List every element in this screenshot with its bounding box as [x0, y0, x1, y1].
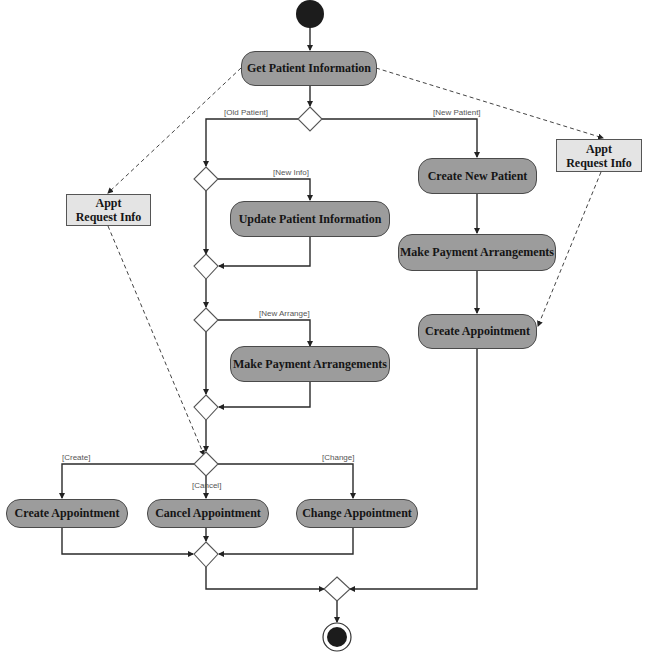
- merge-info: [194, 254, 218, 279]
- flow-old-patient: [206, 119, 298, 166]
- activity-change-appointment[interactable]: Change Appointment: [296, 499, 418, 528]
- guard-create: [Create]: [62, 453, 90, 462]
- activity-create-new-patient[interactable]: Create New Patient: [418, 158, 537, 194]
- flow-create: [62, 464, 194, 498]
- guard-new-patient: [New Patient]: [433, 108, 481, 117]
- merge-final: [324, 577, 350, 601]
- flow-update-to-merge: [219, 237, 310, 266]
- final-node-inner-icon: [327, 627, 347, 647]
- activity-get-patient-information[interactable]: Get Patient Information: [241, 51, 377, 86]
- object-line-1: Appt: [95, 196, 121, 210]
- decision-new-arrange: [194, 308, 218, 332]
- activity-create-appointment-new-patient[interactable]: Create Appointment: [418, 314, 537, 349]
- object-line-2: Request Info: [76, 210, 142, 224]
- flow-payment-to-merge: [219, 382, 310, 407]
- guard-change: [Change]: [322, 453, 354, 462]
- activity-update-patient-information[interactable]: Update Patient Information: [230, 201, 390, 237]
- object-appt-request-info-left[interactable]: Appt Request Info: [66, 194, 151, 226]
- decision-patient-type: [298, 107, 322, 131]
- diagram-canvas: [0, 0, 646, 659]
- guard-new-arrange: [New Arrange]: [259, 309, 310, 318]
- guard-old-patient: [Old Patient]: [224, 108, 268, 117]
- flow-right-to-final-merge: [350, 349, 477, 589]
- flow-left-to-final-merge: [206, 567, 324, 589]
- object-flow-left-appt-to-decision: [108, 226, 204, 455]
- object-line-1: Appt: [586, 142, 612, 156]
- object-flow-to-left-appt: [108, 68, 241, 193]
- flow-new-info: [218, 179, 310, 200]
- activity-make-payment-arrangements-right[interactable]: Make Payment Arrangements: [398, 234, 556, 271]
- activity-create-appointment[interactable]: Create Appointment: [6, 499, 128, 528]
- initial-node-icon: [296, 0, 324, 28]
- flow-new-patient: [322, 119, 477, 157]
- object-line-2: Request Info: [566, 156, 632, 170]
- activity-make-payment-arrangements-left[interactable]: Make Payment Arrangements: [230, 346, 390, 382]
- flow-new-arrange: [218, 320, 310, 346]
- object-flow-to-right-appt: [376, 68, 603, 138]
- flow-create-to-merge: [62, 528, 193, 554]
- object-appt-request-info-right[interactable]: Appt Request Info: [556, 139, 642, 172]
- flow-change-to-merge: [219, 528, 353, 554]
- guard-cancel: [Cancel]: [192, 481, 221, 490]
- merge-appointment-action: [194, 542, 218, 567]
- decision-new-info: [194, 167, 218, 191]
- activity-cancel-appointment[interactable]: Cancel Appointment: [147, 499, 269, 528]
- flow-change: [218, 464, 353, 498]
- guard-new-info: [New Info]: [273, 168, 309, 177]
- decision-appointment-action: [194, 452, 218, 476]
- merge-arrange: [194, 395, 218, 420]
